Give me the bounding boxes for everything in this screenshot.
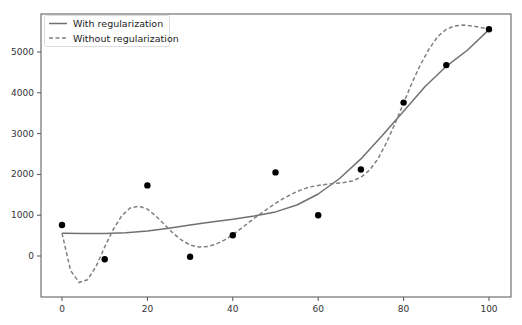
data-point: [272, 169, 278, 175]
x-tick-label: 20: [142, 304, 154, 314]
y-tick-label: 0: [28, 251, 34, 261]
data-point: [486, 26, 492, 32]
data-point: [230, 232, 236, 238]
y-axis: 010002000300040005000: [11, 47, 41, 261]
data-point: [315, 212, 321, 218]
legend-label-with-regularization: With regularization: [73, 18, 163, 29]
x-tick-label: 40: [227, 304, 239, 314]
data-point: [400, 99, 406, 105]
data-point: [59, 222, 65, 228]
chart: 020406080100 010002000300040005000 With …: [0, 0, 522, 325]
plot-area: [41, 14, 511, 297]
data-point: [102, 256, 108, 262]
y-tick-label: 5000: [11, 47, 34, 57]
legend: With regularization Without regularizati…: [45, 16, 179, 47]
x-tick-label: 0: [59, 304, 65, 314]
data-point: [358, 166, 364, 172]
data-point: [144, 182, 150, 188]
legend-label-without-regularization: Without regularization: [73, 33, 179, 44]
x-tick-label: 100: [480, 304, 497, 314]
data-point: [187, 254, 193, 260]
x-tick-label: 80: [398, 304, 410, 314]
y-tick-label: 1000: [11, 210, 34, 220]
data-point: [443, 62, 449, 68]
y-tick-label: 3000: [11, 129, 34, 139]
y-tick-label: 4000: [11, 88, 34, 98]
x-tick-label: 60: [312, 304, 324, 314]
y-tick-label: 2000: [11, 169, 34, 179]
x-axis: 020406080100: [59, 297, 498, 314]
